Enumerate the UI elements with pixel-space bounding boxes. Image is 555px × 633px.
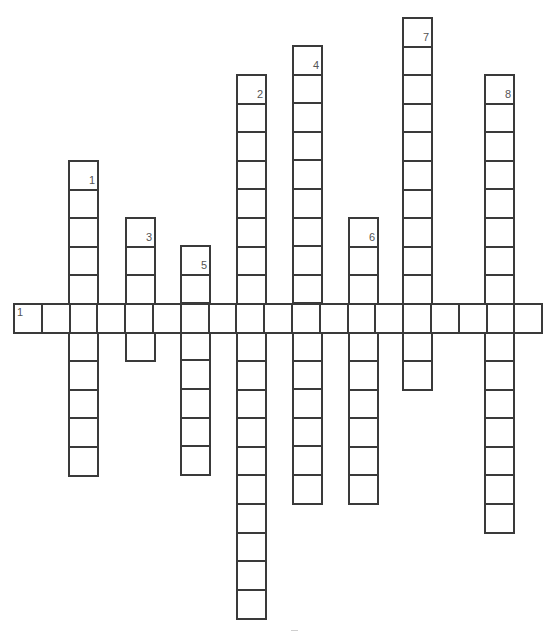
down-8-cell[interactable] <box>484 389 515 420</box>
down-1-cell[interactable] <box>68 360 99 391</box>
down-4-cell[interactable] <box>292 474 323 505</box>
down-7-cell[interactable] <box>402 332 433 363</box>
down-1-cell[interactable] <box>68 332 99 363</box>
down-2-cell[interactable] <box>236 360 267 391</box>
down-2-cell[interactable] <box>236 589 267 620</box>
down-7-cell[interactable] <box>402 189 433 220</box>
down-3-cell[interactable]: 3 <box>125 217 156 248</box>
down-2-cell[interactable] <box>236 217 267 248</box>
down-4-cell[interactable] <box>292 360 323 391</box>
down-2-cell[interactable] <box>236 160 267 191</box>
down-6-cell[interactable] <box>348 331 379 362</box>
down-6-cell[interactable] <box>348 446 379 477</box>
across-1-cell[interactable]: 1 <box>13 303 43 334</box>
down-6-cell[interactable] <box>348 274 379 305</box>
across-1-cell[interactable] <box>152 303 182 334</box>
down-8-cell[interactable] <box>484 331 515 362</box>
down-5-cell[interactable] <box>180 331 211 362</box>
down-2-cell[interactable] <box>236 532 267 563</box>
down-8-cell[interactable] <box>484 188 515 219</box>
down-8-cell[interactable] <box>484 217 515 248</box>
down-2-cell[interactable] <box>236 474 267 505</box>
down-8-cell[interactable] <box>484 503 515 534</box>
down-7-cell[interactable] <box>402 103 433 134</box>
across-1-cell[interactable] <box>374 303 404 334</box>
down-5-cell[interactable] <box>180 445 211 476</box>
down-4-cell[interactable] <box>292 274 323 305</box>
across-1-cell[interactable] <box>180 303 210 334</box>
down-2-cell[interactable] <box>236 389 267 420</box>
down-7-cell[interactable] <box>402 360 433 391</box>
across-1-cell[interactable] <box>319 303 349 334</box>
down-4-cell[interactable] <box>292 74 323 105</box>
down-4-cell[interactable] <box>292 388 323 419</box>
down-2-cell[interactable] <box>236 503 267 534</box>
down-4-cell[interactable] <box>292 131 323 162</box>
down-5-cell[interactable] <box>180 359 211 390</box>
down-7-cell[interactable] <box>402 46 433 77</box>
down-8-cell[interactable] <box>484 160 515 191</box>
down-4-cell[interactable] <box>292 159 323 190</box>
down-7-cell[interactable] <box>402 274 433 305</box>
down-4-cell[interactable] <box>292 188 323 219</box>
down-6-cell[interactable]: 6 <box>348 217 379 248</box>
down-6-cell[interactable] <box>348 246 379 277</box>
down-8-cell[interactable] <box>484 417 515 448</box>
down-4-cell[interactable] <box>292 331 323 362</box>
down-5-cell[interactable] <box>180 274 211 305</box>
across-1-cell[interactable] <box>235 303 265 334</box>
down-8-cell[interactable] <box>484 246 515 277</box>
down-6-cell[interactable] <box>348 417 379 448</box>
down-5-cell[interactable] <box>180 388 211 419</box>
down-2-cell[interactable] <box>236 417 267 448</box>
across-1-cell[interactable] <box>124 303 154 334</box>
down-8-cell[interactable]: 8 <box>484 74 515 105</box>
across-1-cell[interactable] <box>291 303 321 334</box>
across-1-cell[interactable] <box>41 303 71 334</box>
across-1-cell[interactable] <box>69 303 99 334</box>
down-7-cell[interactable] <box>402 217 433 248</box>
down-8-cell[interactable] <box>484 474 515 505</box>
down-4-cell[interactable] <box>292 245 323 276</box>
down-1-cell[interactable] <box>68 246 99 277</box>
down-4-cell[interactable] <box>292 217 323 248</box>
down-7-cell[interactable] <box>402 246 433 277</box>
down-4-cell[interactable] <box>292 102 323 133</box>
across-1-cell[interactable] <box>513 303 543 334</box>
down-4-cell[interactable] <box>292 417 323 448</box>
down-2-cell[interactable]: 2 <box>236 74 267 105</box>
down-1-cell[interactable] <box>68 389 99 420</box>
down-2-cell[interactable] <box>236 246 267 277</box>
across-1-cell[interactable] <box>96 303 126 334</box>
down-8-cell[interactable] <box>484 274 515 305</box>
down-8-cell[interactable] <box>484 103 515 134</box>
down-3-cell[interactable] <box>125 274 156 305</box>
down-8-cell[interactable] <box>484 131 515 162</box>
down-5-cell[interactable] <box>180 417 211 448</box>
down-2-cell[interactable] <box>236 560 267 591</box>
down-1-cell[interactable] <box>68 417 99 448</box>
down-1-cell[interactable]: 1 <box>68 160 99 191</box>
down-1-cell[interactable] <box>68 189 99 220</box>
down-2-cell[interactable] <box>236 331 267 362</box>
down-1-cell[interactable] <box>68 217 99 248</box>
down-2-cell[interactable] <box>236 188 267 219</box>
across-1-cell[interactable] <box>430 303 460 334</box>
down-4-cell[interactable]: 4 <box>292 45 323 76</box>
across-1-cell[interactable] <box>402 303 432 334</box>
across-1-cell[interactable] <box>263 303 293 334</box>
down-5-cell[interactable]: 5 <box>180 245 211 276</box>
down-2-cell[interactable] <box>236 446 267 477</box>
down-8-cell[interactable] <box>484 446 515 477</box>
across-1-cell[interactable] <box>208 303 238 334</box>
down-3-cell[interactable] <box>125 331 156 362</box>
down-2-cell[interactable] <box>236 131 267 162</box>
down-6-cell[interactable] <box>348 474 379 505</box>
across-1-cell[interactable] <box>486 303 516 334</box>
down-7-cell[interactable] <box>402 131 433 162</box>
down-2-cell[interactable] <box>236 103 267 134</box>
down-1-cell[interactable] <box>68 274 99 305</box>
down-8-cell[interactable] <box>484 360 515 391</box>
down-7-cell[interactable]: 7 <box>402 17 433 48</box>
across-1-cell[interactable] <box>347 303 377 334</box>
